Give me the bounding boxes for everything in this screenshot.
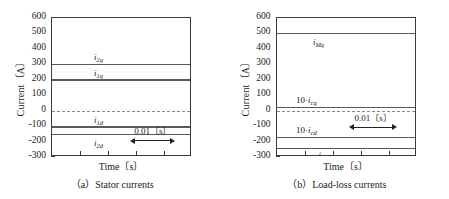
x-axis-label: Time〔s〕 <box>51 158 191 173</box>
y-tick-label: 500 <box>225 28 271 38</box>
panel-caption: （b）Load-loss currents <box>225 176 449 191</box>
y-tick-label: 500 <box>0 28 46 38</box>
series-label-i1d: i1d <box>94 116 103 125</box>
y-tick-label: -300 <box>225 151 271 161</box>
y-tick-label: 600 <box>0 12 46 22</box>
arrow-head-left <box>349 124 354 130</box>
y-tick-label: 200 <box>225 74 271 84</box>
series-label-subscript: 2q <box>97 56 104 63</box>
chart-panel-stator: Current〔A〕6005004003002001000-100-200-30… <box>0 0 225 199</box>
arrow-head-left <box>130 138 135 144</box>
y-tick-label: -200 <box>0 136 46 146</box>
x-tick-mark <box>108 151 109 155</box>
series-label-subscript: cq <box>311 99 317 106</box>
series-label-subscript: 1q <box>97 72 104 79</box>
arrow-head-right <box>392 124 397 130</box>
series-label-10icd: 10·icd <box>296 126 317 135</box>
series-label-iMd: iMd <box>319 151 330 157</box>
zero-reference-line <box>52 111 190 112</box>
y-tick-label: 400 <box>0 43 46 53</box>
figure-container: Current〔A〕6005004003002001000-100-200-30… <box>0 0 449 199</box>
x-tick-mark <box>389 151 390 155</box>
data-line-iMq <box>277 33 415 35</box>
x-tick-mark <box>333 151 334 155</box>
series-label-10icq: 10·icq <box>296 96 317 105</box>
series-label-i2q: i2q <box>94 53 103 62</box>
x-axis-label: Time〔s〕 <box>276 158 416 173</box>
data-line-i1q <box>52 79 190 81</box>
y-tick-mark <box>276 156 280 157</box>
y-tick-label: 600 <box>225 12 271 22</box>
panel-caption: （a）Stator currents <box>0 176 225 191</box>
time-span-annotation: 0.01〔s〕 <box>130 126 175 145</box>
double-arrow-icon <box>349 123 397 132</box>
series-label-subscript: cd <box>311 129 317 136</box>
y-tick-label: 100 <box>225 89 271 99</box>
series-label-subscript: Md <box>321 154 330 157</box>
y-tick-mark <box>51 156 55 157</box>
y-tick-label: 400 <box>225 43 271 53</box>
arrow-head-right <box>170 138 175 144</box>
series-label-prefix: 10· <box>296 95 308 105</box>
arrow-shaft <box>352 127 394 128</box>
zero-reference-line <box>277 111 415 112</box>
x-tick-mark <box>305 151 306 155</box>
time-span-annotation: 0.01〔s〕 <box>349 113 397 132</box>
series-label-subscript: 1d <box>97 119 104 126</box>
time-span-annotation-label: 0.01〔s〕 <box>349 113 397 123</box>
x-tick-mark <box>136 151 137 155</box>
y-tick-label: 200 <box>0 74 46 84</box>
series-label-prefix: 10· <box>296 125 308 135</box>
y-tick-label: -100 <box>0 120 46 130</box>
y-tick-label: -100 <box>225 120 271 130</box>
y-tick-label: 0 <box>0 105 46 115</box>
data-line-iMd <box>277 148 415 150</box>
y-tick-label: 300 <box>225 59 271 69</box>
double-arrow-icon <box>130 136 175 145</box>
data-line-10icd <box>277 137 415 139</box>
x-tick-mark <box>80 151 81 155</box>
y-tick-label: 100 <box>0 89 46 99</box>
y-tick-label: 300 <box>0 59 46 69</box>
data-line-i2q <box>52 64 190 66</box>
x-tick-mark <box>361 151 362 155</box>
series-label-iMq: iMq <box>313 38 324 47</box>
y-tick-label: 0 <box>225 105 271 115</box>
series-label-symbol: i <box>319 150 322 157</box>
time-span-annotation-label: 0.01〔s〕 <box>130 126 175 136</box>
data-line-10icq <box>277 107 415 109</box>
plot-area: i2qi1qi1di2d0.01〔s〕 <box>51 17 191 156</box>
y-tick-label: -200 <box>225 136 271 146</box>
x-tick-mark <box>164 151 165 155</box>
arrow-shaft <box>133 140 172 141</box>
plot-area: iMq10·icq10·icdiMd0.01〔s〕 <box>276 17 416 156</box>
series-label-i1q: i1q <box>94 69 103 78</box>
series-label-i2d: i2d <box>94 139 103 148</box>
series-label-subscript: 2d <box>97 142 104 149</box>
series-label-subscript: Mq <box>315 41 324 48</box>
chart-panel-load-loss: Current〔A〕6005004003002001000-100-200-30… <box>225 0 449 199</box>
y-tick-label: -300 <box>0 151 46 161</box>
